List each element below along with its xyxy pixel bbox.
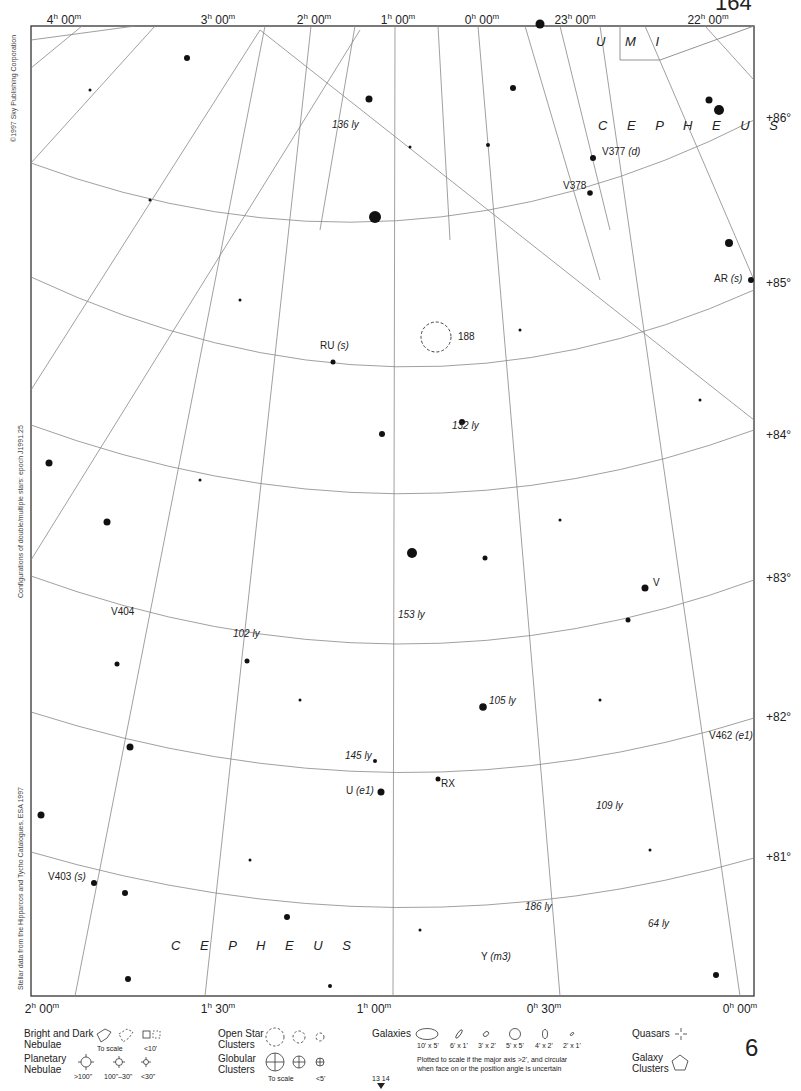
ra-label: 0h 00m: [723, 1001, 758, 1016]
stars: [38, 20, 755, 989]
globular-to-scale: To scale: [268, 1075, 294, 1082]
dec-label: +83°: [766, 571, 791, 585]
ra-label: 1h 00m: [381, 12, 416, 27]
legend-globular-clusters: Globular Clusters: [218, 1053, 256, 1075]
ra-label: 4h 00m: [47, 12, 82, 27]
distance-label: 64 ly: [648, 918, 669, 929]
nebula-small: <10': [144, 1045, 157, 1052]
legend-quasars: Quasars: [632, 1028, 670, 1039]
galaxy-icons: [414, 1026, 589, 1042]
ra-label: 3h 00m: [201, 12, 236, 27]
legend-planetary: Planetary Nebulae: [24, 1053, 66, 1075]
ra-label: 2h 00m: [297, 12, 332, 27]
adjacent-chart-14[interactable]: 14: [382, 1075, 390, 1082]
dec-label: +82°: [766, 710, 791, 724]
legend-galaxies: Galaxies: [372, 1028, 411, 1039]
planetary-size-medium: 100"–30": [104, 1073, 132, 1080]
star-label: V462 (e1): [709, 730, 753, 741]
globular-small: <5': [316, 1075, 325, 1082]
configurations-credit: Configurations of double/multiple stars:…: [17, 425, 24, 598]
galaxy-note: Plotted to scale if the major axis >2', …: [417, 1055, 567, 1073]
distance-label: 109 ly: [596, 800, 623, 811]
star-label: RU (s): [320, 340, 349, 351]
constellation-label: C E P H E U S: [598, 118, 786, 133]
constellation-label: C E P H E U S: [171, 938, 359, 953]
constellation-label: U M I: [596, 34, 667, 49]
distance-label: 145 ly: [345, 750, 372, 761]
planetary-size-small: <30": [141, 1073, 155, 1080]
star-label: V378: [563, 180, 586, 191]
star-label: Y (m3): [481, 951, 511, 962]
star-label: V403 (s): [48, 871, 86, 882]
galaxy-cluster-icon: [670, 1053, 690, 1073]
open-cluster-188: [421, 322, 451, 352]
open-cluster-icons: [264, 1025, 334, 1049]
distance-label: 153 ly: [398, 609, 425, 620]
chart-frame: [31, 26, 754, 996]
copyright-credit: ©1997 Sky Publishing Corporation: [10, 35, 17, 142]
ra-label: 23h 00m: [554, 12, 595, 27]
star-chart: [0, 0, 801, 1091]
chart-pointer-icon: [377, 1083, 385, 1089]
adjacent-chart-refs[interactable]: 13 14: [372, 1075, 390, 1082]
planetary-size-large: >100": [74, 1073, 92, 1080]
deep-sky-label: 188: [458, 331, 475, 342]
planetary-nebula-icons: [76, 1052, 166, 1072]
star-label: V377 (d): [602, 146, 640, 157]
ra-label: 1h 00m: [357, 1001, 392, 1016]
dec-label: +81°: [766, 850, 791, 864]
nebula-to-scale: To scale: [97, 1045, 123, 1052]
coordinate-grid: [31, 26, 754, 996]
distance-label: 105 ly: [489, 695, 516, 706]
stellar-data-credit: Stellar data from the Hipparcos and Tych…: [17, 787, 24, 990]
legend-galaxy-clusters: Galaxy Clusters: [632, 1052, 669, 1074]
adjacent-chart-13[interactable]: 13: [372, 1075, 380, 1082]
quasar-icon: [674, 1027, 688, 1041]
distance-label: 186 ly: [525, 901, 552, 912]
star-label: RX: [441, 778, 455, 789]
dec-label: +85°: [766, 276, 791, 290]
ra-label: 2h 00m: [25, 1001, 60, 1016]
legend-nebulae: Bright and Dark Nebulae: [24, 1028, 93, 1050]
star-label: U (e1): [346, 785, 374, 796]
star-label: V404: [111, 606, 134, 617]
page-number: 6: [745, 1034, 758, 1062]
distance-label: 132 ly: [452, 420, 479, 431]
legend-open-clusters: Open Star Clusters: [218, 1028, 264, 1050]
dec-label: +84°: [766, 428, 791, 442]
ra-label: 22h 00m: [687, 12, 728, 27]
star-label: AR (s): [714, 273, 742, 284]
ra-label: 0h 30m: [527, 1001, 562, 1016]
ra-label: 1h 30m: [201, 1001, 236, 1016]
distance-label: 136 ly: [332, 119, 359, 130]
globular-cluster-icons: [264, 1051, 334, 1075]
ra-label: 0h 00m: [465, 12, 500, 27]
distance-label: 102 ly: [233, 628, 260, 639]
star-label: V: [653, 577, 660, 588]
